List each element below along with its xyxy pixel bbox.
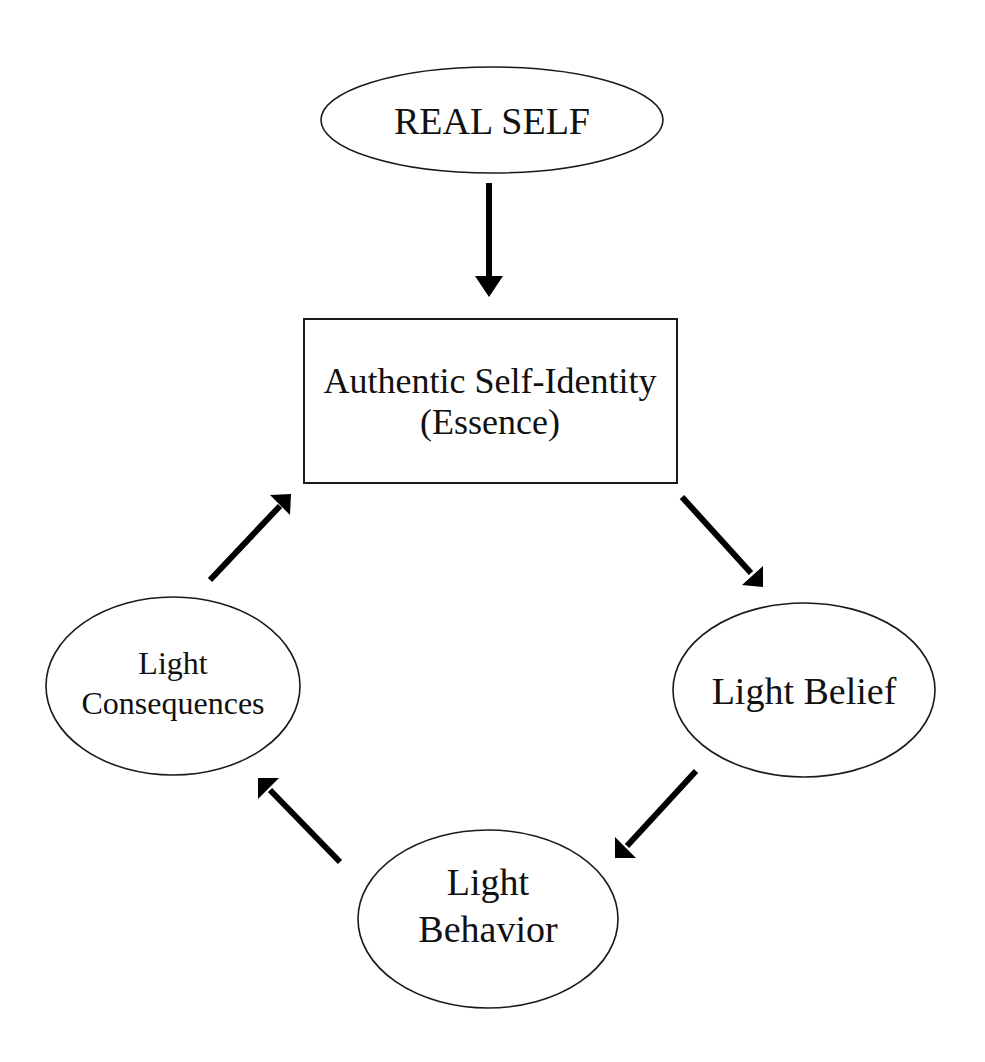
light-consequences-line1: Light — [138, 645, 207, 681]
light-behavior-line1: Light — [447, 861, 530, 903]
arrow-down-icon — [475, 183, 503, 297]
light-behavior-line2: Behavior — [418, 908, 558, 950]
arrow-up-left-icon — [258, 778, 340, 862]
node-light-behavior: Light Behavior — [358, 830, 618, 1008]
node-real-self: REAL SELF — [321, 67, 663, 173]
authentic-identity-box — [304, 319, 677, 483]
cycle-diagram: REAL SELF Authentic Self-Identity (Essen… — [0, 0, 985, 1062]
arrow-down-right-icon — [682, 497, 763, 587]
node-light-consequences: Light Consequences — [46, 597, 300, 775]
arrow-down-left-icon — [615, 771, 696, 858]
authentic-identity-line2: (Essence) — [420, 402, 560, 442]
node-authentic-self-identity: Authentic Self-Identity (Essence) — [304, 319, 677, 483]
arrow-up-right-icon — [210, 494, 291, 580]
authentic-identity-line1: Authentic Self-Identity — [324, 361, 657, 401]
light-belief-label: Light Belief — [712, 670, 897, 712]
node-light-belief: Light Belief — [673, 603, 935, 777]
light-consequences-line2: Consequences — [81, 685, 264, 721]
real-self-label: REAL SELF — [394, 100, 590, 142]
